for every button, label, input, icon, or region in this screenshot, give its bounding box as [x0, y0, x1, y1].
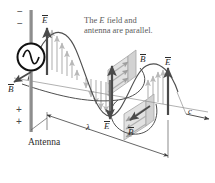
ac-generator-icon: [18, 44, 45, 71]
caption-text: The E field and antenna are parallel.: [84, 16, 153, 36]
caption-line-2: antenna are parallel.: [84, 25, 153, 35]
e-vector-label-trough: E: [104, 121, 110, 131]
caption-line-1-rest: field and: [107, 15, 137, 25]
e-top-vector-text: E: [42, 15, 48, 25]
b-right-vector-bar: [128, 127, 134, 128]
b-vector-label-mid: B: [140, 54, 146, 64]
b-mid-vector-text: B: [140, 54, 146, 64]
e-field-arrow-bundle-crest1: [52, 30, 77, 80]
e-right-vector-bar: [165, 57, 171, 58]
antenna-label: Antenna: [28, 137, 60, 148]
antenna-charge-minus-1: −: [17, 6, 23, 18]
antenna-base-connector: [31, 118, 47, 130]
wavelength-label: λ: [86, 122, 90, 132]
e-top-vector-bar: [42, 15, 48, 16]
b-left-vector-text: B: [8, 84, 14, 94]
c-axis-connector: [177, 92, 186, 114]
caption-line-1: The E field and: [84, 15, 137, 25]
e-wave-curve: [28, 32, 178, 116]
antenna-charge-minus-2: −: [17, 18, 23, 30]
antenna-charge-plus-1: +: [16, 104, 22, 116]
e-vector-label-right: E: [165, 57, 171, 67]
b-right-vector-text: B: [128, 127, 134, 137]
caption-e-symbol: E: [99, 15, 104, 25]
e-right-vector-text: E: [165, 57, 171, 67]
e-vector-label-top: E: [42, 15, 48, 25]
e-trough-vector-bar: [104, 121, 110, 122]
antenna-charge-plus-2: +: [16, 116, 22, 128]
b-mid-vector-bar: [140, 54, 146, 55]
speed-of-light-label: c: [188, 106, 192, 116]
b-vector-label-left: B: [8, 84, 14, 94]
b-left-vector-bar: [8, 84, 14, 85]
e-field-arrow-bundle-trough: [86, 78, 106, 112]
e-trough-vector-text: E: [104, 121, 110, 131]
b-vector-label-right: B: [128, 127, 134, 137]
